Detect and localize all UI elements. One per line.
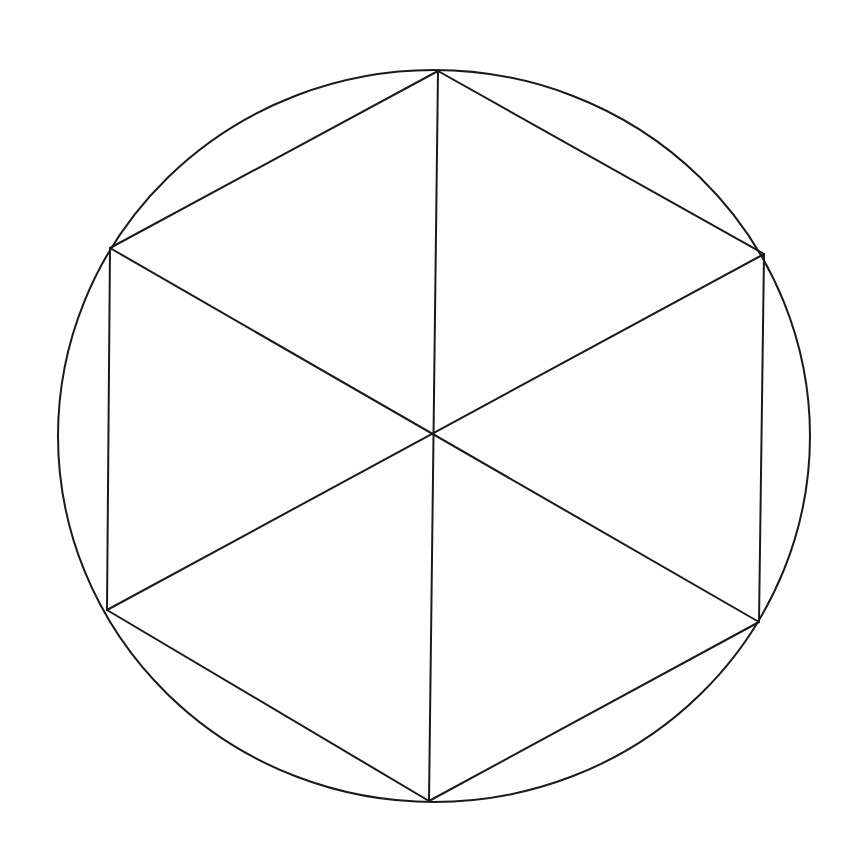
geometry-figure-canvas: Regular hexagon inscribed in a circle wi…	[0, 0, 861, 847]
